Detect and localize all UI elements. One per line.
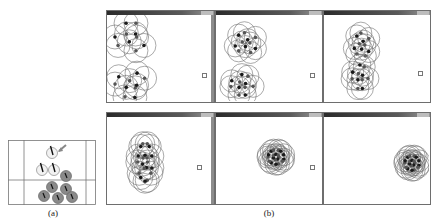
caption-b: (b): [254, 208, 284, 218]
simulation-window-2: [215, 10, 323, 103]
agent-dot: [360, 78, 364, 82]
panel-b-simulation-windows: [106, 10, 431, 206]
agent-dot: [128, 79, 132, 83]
agent-dot: [246, 74, 250, 78]
agent-dot: [137, 171, 141, 175]
agent-dot: [136, 160, 140, 164]
agent-dot: [249, 51, 253, 55]
agent-gray: [47, 182, 58, 193]
agent-dot: [117, 75, 121, 79]
agent-dot: [361, 87, 365, 91]
agent-dot: [267, 153, 271, 157]
agent-dot: [416, 165, 420, 169]
agent-dot: [123, 95, 127, 99]
agent-dot: [134, 32, 138, 36]
flock-canvas: [324, 15, 429, 101]
agent-dot: [240, 40, 244, 44]
agent-dot: [361, 39, 365, 43]
simulation-window-1: [106, 10, 215, 103]
agent-dot: [244, 45, 248, 49]
agent-gray: [61, 171, 72, 182]
goal-target-icon: [310, 165, 315, 170]
agent-dot: [276, 154, 280, 158]
agent-dot: [248, 41, 252, 45]
agent-dot: [351, 70, 355, 74]
agent-dot: [274, 162, 278, 166]
agent-dot: [357, 72, 361, 76]
agent-dot: [350, 77, 354, 81]
agent-dot: [360, 47, 364, 51]
agent-dot: [134, 49, 138, 53]
agent-dot: [150, 166, 154, 170]
agent-dot: [254, 47, 258, 51]
agent-dot: [135, 71, 139, 75]
agent-dot: [143, 76, 147, 80]
agent-dot: [281, 159, 285, 163]
goal-target-icon: [202, 73, 207, 78]
agent-dot: [243, 31, 247, 35]
agent-dot: [359, 31, 363, 35]
agent-dot: [135, 84, 139, 88]
agent-dot: [367, 37, 371, 41]
agent-dot: [412, 160, 416, 164]
agent-dot: [254, 36, 258, 40]
agent-dot: [246, 38, 250, 42]
agent-dot: [237, 33, 241, 37]
agent-dot: [124, 22, 128, 26]
agent-dot: [147, 145, 151, 149]
agent-gray: [39, 191, 50, 202]
agent-dot: [136, 154, 140, 158]
agent-dot: [356, 78, 360, 82]
panel-a-schematic: [8, 140, 96, 205]
agent-dot: [417, 159, 421, 163]
agent-dot: [363, 43, 367, 47]
simulation-window-4: [106, 112, 215, 205]
agent-dot: [404, 165, 408, 169]
agent-dot: [237, 86, 241, 90]
agent-dot: [410, 168, 414, 172]
agent-dot: [237, 49, 241, 53]
agent-dot: [243, 86, 247, 90]
agent-dot: [237, 93, 241, 97]
agent-dot: [251, 85, 255, 89]
simulation-window-3: [323, 10, 431, 103]
simulation-window-5: [215, 112, 323, 205]
agent-dot: [279, 149, 283, 153]
flock-canvas: [216, 15, 321, 101]
agent-dot: [358, 63, 362, 67]
agent-dot: [353, 47, 357, 51]
agent-gray: [67, 192, 78, 203]
agent-dot: [238, 80, 242, 84]
agent-dot: [142, 167, 146, 171]
agent-dot: [408, 154, 412, 158]
agent-dot: [143, 179, 147, 183]
agent-dot: [141, 142, 145, 146]
agent-dot: [244, 93, 248, 97]
agent-dot: [282, 153, 286, 157]
agent-dot: [358, 42, 362, 46]
goal-target-icon: [310, 73, 315, 78]
agent-dot: [230, 79, 234, 83]
agent-dot: [127, 40, 131, 44]
agent-dot: [125, 32, 129, 36]
agent-dot: [229, 85, 233, 89]
agent-dot: [124, 86, 128, 90]
agent-dot: [268, 159, 272, 163]
agent-dot: [116, 44, 120, 48]
agent-dot: [244, 82, 248, 86]
agent-dot: [139, 176, 143, 180]
agent-dot: [145, 156, 149, 160]
goal-target-icon: [418, 71, 423, 76]
agent-gray: [53, 193, 64, 204]
agent-dot: [150, 154, 154, 158]
agent-dot: [240, 73, 244, 77]
agent-dot: [366, 77, 370, 81]
agent-dot: [142, 44, 146, 48]
agent-dot: [356, 87, 360, 91]
flock-canvas: [107, 117, 213, 203]
goal-target-icon: [197, 165, 202, 170]
agent-dot: [361, 73, 365, 77]
agent-dot: [414, 155, 418, 159]
agent-dot: [149, 171, 153, 175]
agent-dot: [134, 22, 138, 26]
